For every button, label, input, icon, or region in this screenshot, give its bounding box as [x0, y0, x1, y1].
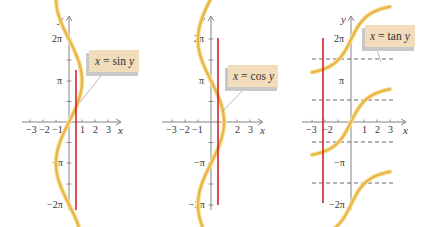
x-tick-label: −1 [52, 124, 63, 135]
panel-tan: −3 −2 1 2 3 x y 2π π −π −2π x=tany [302, 0, 415, 227]
x-tick-label: −1 [192, 124, 203, 135]
x-axis-label: x [117, 124, 123, 136]
x-tick-label: 2 [235, 124, 240, 135]
x-tick-label: 1 [362, 124, 367, 135]
label-leader-line [377, 50, 381, 62]
panel-cos: −3 −2 −1 2 3 x y 2π π −π −2π x=cosy [162, 0, 278, 227]
x-tick-label: 2 [375, 124, 380, 135]
y-axis-label: y [340, 13, 346, 25]
x-tick-label: −2 [39, 124, 50, 135]
figure-three-panels: −3 −2 −1 1 2 3 x y 2π π −π −2π x=siny [0, 0, 434, 227]
y-tick-label: 2π [334, 33, 344, 44]
x-axis-label: x [402, 124, 408, 136]
x-tick-label: 3 [248, 124, 253, 135]
x-tick-label: 1 [80, 124, 85, 135]
y-tick-label: −π [194, 157, 205, 168]
label-leader-line [222, 90, 243, 112]
x-tick-label: −3 [26, 124, 37, 135]
x-tick-label: −2 [179, 124, 190, 135]
y-tick-label: π [339, 75, 344, 86]
x-tick-label: 2 [93, 124, 98, 135]
panel-sin: −3 −2 −1 1 2 3 x y 2π π −π −2π x=siny [22, 0, 139, 227]
x-tick-label: −3 [306, 124, 317, 135]
x-tick-label: 3 [106, 124, 111, 135]
y-tick-label: −2π [47, 199, 63, 210]
y-tick-label: π [199, 75, 204, 86]
y-tick-label: π [57, 75, 62, 86]
x-tick-label: 3 [388, 124, 393, 135]
y-tick-label: −π [334, 157, 345, 168]
y-tick-label: 2π [52, 33, 62, 44]
y-tick-label: −2π [329, 199, 345, 210]
x-tick-label: −3 [166, 124, 177, 135]
x-axis-label: x [259, 124, 265, 136]
